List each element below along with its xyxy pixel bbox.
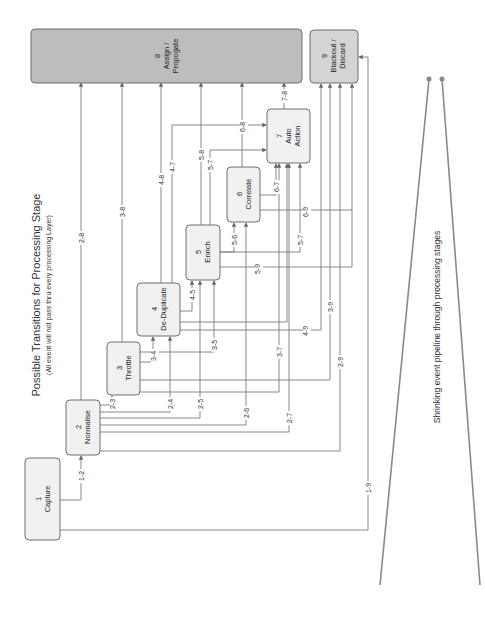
stage-6-correlate: 6 Correlate <box>227 167 260 222</box>
label-1-2: 1-2 <box>78 471 85 481</box>
label-5-6: 5-6 <box>231 235 238 245</box>
label-2-9: 2-9 <box>337 357 344 367</box>
stage-9-name: Blackout / <box>329 39 338 73</box>
label-5-9: 5-9 <box>254 264 261 274</box>
label-5-7-lower: 5-7 <box>297 235 304 245</box>
label-3-4: 3-4 <box>150 351 157 361</box>
shrinking-pipeline: Shrinking event pipeline through process… <box>380 77 480 586</box>
label-2-3: 2-3 <box>109 399 116 409</box>
label-3-9: 3-9 <box>327 302 334 312</box>
stage-5-number: 5 <box>194 250 203 254</box>
pipeline-caption: Shrinking event pipeline through process… <box>432 231 442 423</box>
label-4-8: 4-8 <box>158 175 165 185</box>
label-2-7: 2-7 <box>286 413 293 423</box>
pipeline-right-line <box>442 79 480 585</box>
stage-2-normalise: 2 Normalise <box>66 400 100 455</box>
stage-1-number: 1 <box>34 497 43 501</box>
label-6-7: 6-7 <box>273 182 280 192</box>
stage-9-number: 9 <box>320 54 329 58</box>
label-3-8: 3-8 <box>119 207 126 217</box>
label-3-7: 3-7 <box>276 347 283 357</box>
label-5-8: 5-8 <box>198 150 205 160</box>
stage-8-name-2: Propogate <box>171 39 180 74</box>
stage-2-number: 2 <box>74 425 83 429</box>
stage-4-de-duplicate: 4 De-Duplicate <box>137 283 180 336</box>
label-6-9: 6-9 <box>302 207 309 217</box>
stage-7-auto-action: 7 Auto Action <box>267 109 310 163</box>
stage-3-number: 3 <box>115 366 124 370</box>
label-2-8: 2-8 <box>78 233 85 243</box>
label-4-5: 4-5 <box>189 290 196 300</box>
label-4-7: 4-7 <box>169 162 176 172</box>
label-6-8: 6-8 <box>239 122 246 132</box>
stage-4-name: De-Duplicate <box>159 287 168 330</box>
stage-7-name: Auto <box>284 128 293 143</box>
stage-9-blackout-discard: 9 Blackout / Discard <box>310 30 358 83</box>
diagram-title: Possible Transitions for Processing Stag… <box>30 194 42 397</box>
diagram-title-group: Possible Transitions for Processing Stag… <box>30 194 53 397</box>
label-5-7-upper: 5-7 <box>207 160 214 170</box>
label-2-6: 2-6 <box>243 408 250 418</box>
stage-2-name: Normalise <box>83 410 92 444</box>
diagram-subtitle: (All event will not pass thru every proc… <box>45 215 53 375</box>
stage-6-name: Correlate <box>244 179 253 210</box>
stage-8-assign-propogate: 8 Assign / Propogate <box>31 29 302 83</box>
label-7-8: 7-8 <box>281 91 288 101</box>
stage-8-name: Assign / <box>162 42 171 70</box>
label-2-5: 2-5 <box>197 399 204 409</box>
stage-1-capture: 1 Capture <box>25 458 60 540</box>
transition-diagram: 1-2 1-9 2-8 2-3 2-4 2-5 2-6 2-7 2-9 3-8 … <box>0 0 485 625</box>
label-3-5: 3-5 <box>211 340 218 350</box>
pipeline-left-dot <box>427 77 432 82</box>
stage-8-number: 8 <box>153 54 162 58</box>
stage-3-name: Throttle <box>124 355 133 380</box>
stage-1-name: Capture <box>43 486 52 513</box>
stage-5-name: Enrich <box>203 241 212 262</box>
connections <box>60 57 368 530</box>
stage-9-name-2: Discard <box>338 43 347 68</box>
stage-5-enrich: 5 Enrich <box>186 225 220 280</box>
stage-7-number: 7 <box>275 134 284 138</box>
label-2-4: 2-4 <box>167 399 174 409</box>
stage-7-name-2: Action <box>293 126 302 147</box>
label-1-9: 1-9 <box>365 483 372 493</box>
pipeline-right-dot <box>440 77 445 82</box>
stage-6-number: 6 <box>235 192 244 196</box>
pipeline-left-line <box>380 79 429 585</box>
stage-4-number: 4 <box>150 307 159 311</box>
label-4-9: 4-9 <box>302 326 309 336</box>
stage-3-throttle: 3 Throttle <box>107 342 140 395</box>
